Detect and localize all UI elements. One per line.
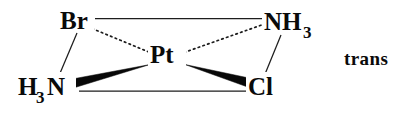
atom-subscript-nh3: 3 bbox=[303, 23, 312, 42]
bond-pt-nh3-dotted bbox=[184, 25, 263, 53]
bond-pt-cl-wedge bbox=[185, 65, 249, 88]
atom-label-h3n-h: H bbox=[18, 73, 38, 100]
atom-label-h3n-n: N bbox=[47, 73, 65, 100]
bond-br-pt-dotted bbox=[92, 29, 150, 53]
atom-label-pt: Pt bbox=[150, 41, 174, 68]
atom-label-nh3: NH bbox=[264, 8, 302, 35]
structure-diagram: Br NH 3 Pt H 3 N Cl trans bbox=[0, 0, 418, 118]
isomer-label: trans bbox=[344, 48, 388, 69]
bond-pt-h3n-wedge bbox=[75, 65, 150, 88]
atom-label-cl: Cl bbox=[248, 73, 273, 100]
chemical-structure-figure: Br NH 3 Pt H 3 N Cl trans bbox=[0, 0, 418, 118]
atom-subscript-h3n: 3 bbox=[36, 88, 45, 107]
atom-label-br: Br bbox=[60, 7, 88, 34]
bond-br-h3n bbox=[58, 33, 77, 78]
